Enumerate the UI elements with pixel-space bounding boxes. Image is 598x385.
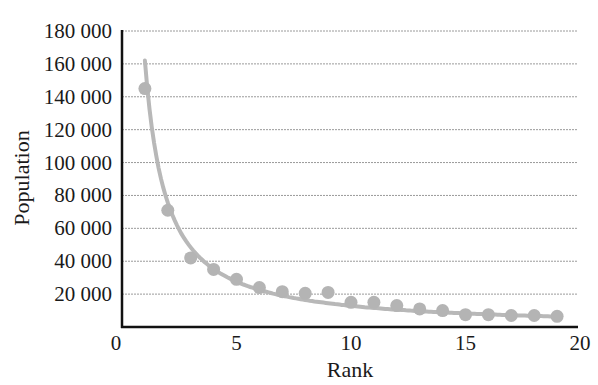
data-point [436,304,449,317]
x-axis-tick-labels: 5101520 [231,331,590,355]
data-point [367,296,380,309]
data-point [299,287,312,300]
data-points [138,82,563,323]
y-axis-label: Population [9,130,34,225]
y-tick-label: 80 000 [54,183,112,207]
zipf-population-chart: 20 00040 00060 00080 000100 000120 00014… [0,0,598,385]
data-point [459,308,472,321]
data-point [161,204,174,217]
x-tick-label: 10 [341,331,362,355]
y-tick-label: 100 000 [44,151,112,175]
origin-tick-label: 0 [111,331,122,355]
data-point [551,310,564,323]
data-point [184,251,197,264]
data-point [207,263,220,276]
data-point [138,82,151,95]
x-tick-label: 20 [570,331,591,355]
data-point [345,296,358,309]
data-point [528,309,541,322]
y-tick-label: 180 000 [44,19,112,43]
data-point [482,308,495,321]
y-tick-label: 160 000 [44,52,112,76]
data-point [230,273,243,286]
data-point [390,299,403,312]
y-tick-label: 120 000 [44,118,112,142]
y-axis-tick-labels: 20 00040 00060 00080 000100 000120 00014… [44,19,122,355]
y-tick-label: 140 000 [44,85,112,109]
x-tick-label: 5 [231,331,242,355]
y-tick-label: 60 000 [54,216,112,240]
data-point [276,285,289,298]
data-point [253,281,266,294]
data-point [322,286,335,299]
fitted-curve [145,61,557,317]
data-point [413,302,426,315]
y-tick-label: 40 000 [54,249,112,273]
data-point [505,309,518,322]
x-tick-label: 15 [455,331,476,355]
x-axis-label: Rank [327,357,373,382]
y-tick-label: 20 000 [54,282,112,306]
